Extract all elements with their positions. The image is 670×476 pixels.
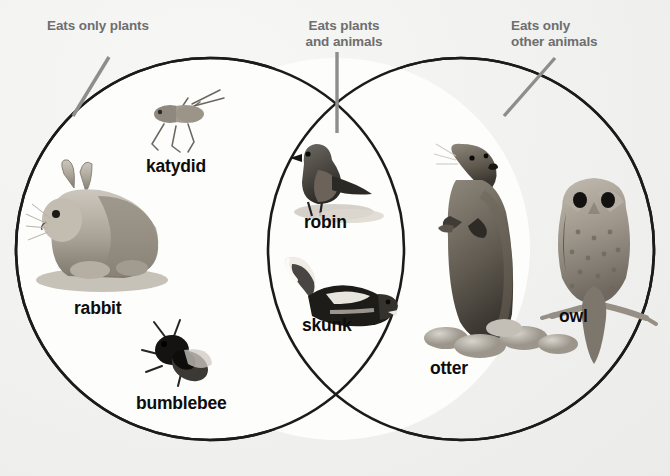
venn-diagram-svg bbox=[0, 0, 670, 476]
set-label-middle: Eats plants and animals bbox=[289, 18, 399, 49]
item-label-otter: otter bbox=[430, 358, 468, 379]
set-label-left: Eats only plants bbox=[47, 18, 149, 34]
item-label-skunk: skunk bbox=[302, 315, 352, 336]
item-label-owl: owl bbox=[559, 306, 588, 327]
set-label-right: Eats only other animals bbox=[511, 18, 597, 49]
item-label-katydid: katydid bbox=[146, 156, 206, 177]
item-label-robin: robin bbox=[304, 212, 347, 233]
diagram-canvas: Eats only plants Eats plants and animals… bbox=[0, 0, 670, 476]
item-label-rabbit: rabbit bbox=[74, 298, 121, 319]
item-label-bumblebee: bumblebee bbox=[136, 393, 227, 414]
